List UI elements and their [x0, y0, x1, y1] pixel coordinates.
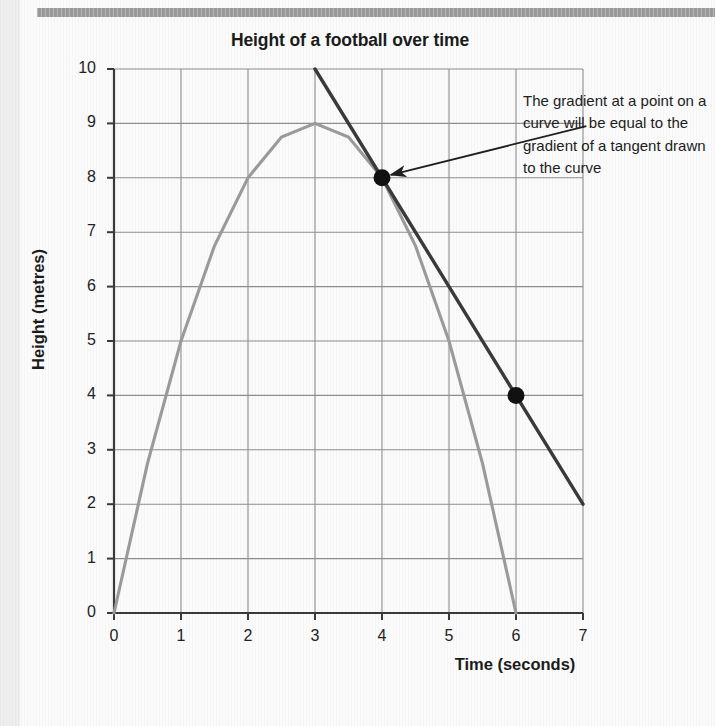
y-tick-label: 5 [70, 331, 96, 349]
x-tick-label: 5 [437, 627, 461, 645]
x-tick-label: 0 [102, 627, 126, 645]
y-tick-label: 4 [70, 385, 96, 403]
y-tick-label: 8 [70, 168, 96, 186]
x-tick-label: 1 [169, 627, 193, 645]
x-tick-label: 6 [504, 627, 528, 645]
y-tick-label: 2 [70, 494, 96, 512]
y-axis-title: Height (metres) [29, 210, 48, 410]
x-tick-label: 4 [370, 627, 394, 645]
y-tick-label: 7 [70, 222, 96, 240]
tangent-point [374, 169, 391, 186]
y-tick-label: 3 [70, 440, 96, 458]
x-tick-label: 7 [571, 627, 595, 645]
y-tick-label: 1 [70, 549, 96, 567]
x-tick-label: 3 [303, 627, 327, 645]
y-tick-label: 10 [70, 59, 96, 77]
gradient-annotation-text: The gradient at a point on a curve will … [523, 90, 709, 180]
y-tick-label: 9 [70, 113, 96, 131]
y-tick-label: 0 [70, 603, 96, 621]
x-tick-label: 2 [236, 627, 260, 645]
x-axis-title: Time (seconds) [405, 655, 625, 674]
chart-title: Height of a football over time [0, 30, 700, 51]
axis-tick-marks [107, 69, 583, 620]
tangent-second-point [508, 387, 525, 404]
figure-page: Height of a football over time Height (m… [0, 0, 715, 726]
gridlines [114, 69, 583, 613]
y-tick-label: 6 [70, 277, 96, 295]
